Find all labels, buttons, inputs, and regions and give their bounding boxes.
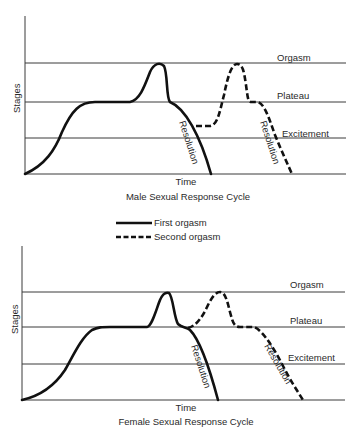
female-orgasm-label: Orgasm — [290, 279, 324, 290]
male-chart: Orgasm Plateau Excitement Resolution Res… — [11, 16, 346, 202]
male-orgasm-label: Orgasm — [277, 52, 311, 63]
female-chart: Orgasm Plateau Excitement Resolution Res… — [9, 246, 345, 427]
female-y-axis-label: Stages — [9, 304, 20, 334]
male-excitement-label: Excitement — [282, 128, 329, 139]
legend-first-orgasm: First orgasm — [154, 217, 207, 228]
female-excitement-label: Excitement — [288, 352, 335, 363]
male-caption: Male Sexual Response Cycle — [126, 191, 250, 202]
sexual-response-cycle-diagram: Orgasm Plateau Excitement Resolution Res… — [0, 0, 363, 435]
male-x-axis-label: Time — [176, 176, 197, 187]
male-first-orgasm-curve — [25, 64, 211, 174]
female-caption: Female Sexual Response Cycle — [118, 416, 253, 427]
female-x-axis-label: Time — [176, 402, 197, 413]
female-first-orgasm-curve — [22, 293, 218, 400]
legend: First orgasm Second orgasm — [116, 217, 221, 242]
female-resolution-label-1: Resolution — [189, 343, 213, 389]
male-y-axis-label: Stages — [11, 83, 22, 113]
legend-second-orgasm: Second orgasm — [154, 231, 221, 242]
male-plateau-label: Plateau — [277, 90, 309, 101]
female-plateau-label: Plateau — [290, 315, 322, 326]
